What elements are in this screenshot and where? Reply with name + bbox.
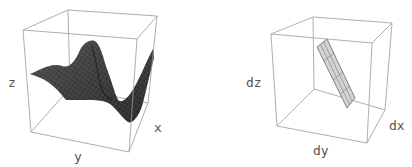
x-axis-label: x <box>154 120 162 135</box>
surface-mesh <box>30 40 154 122</box>
z-axis-label: z <box>8 75 16 90</box>
dz-axis-label: dz <box>246 75 262 90</box>
surface-plot: z x y <box>8 10 162 164</box>
tangent-plane <box>317 39 355 108</box>
dx-axis-label: dx <box>389 118 405 133</box>
bounding-box-front <box>271 17 392 143</box>
tangent-plane-plot: dz dx dy <box>246 17 405 158</box>
y-axis-label: y <box>74 149 82 164</box>
figure-canvas: z x y dz dx dy <box>0 0 412 167</box>
dy-axis-label: dy <box>313 143 329 158</box>
